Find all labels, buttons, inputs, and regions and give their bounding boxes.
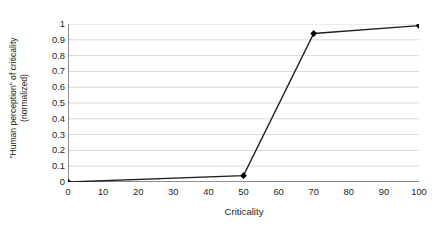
x-axis-tick-labels: 0102030405060708090100 bbox=[0, 186, 446, 204]
y-tick-label: 1 bbox=[34, 19, 65, 29]
x-axis-title: Criticality bbox=[68, 206, 420, 217]
data-point-marker bbox=[240, 172, 247, 179]
x-tick-label: 0 bbox=[48, 186, 88, 197]
data-point-marker bbox=[310, 30, 317, 37]
x-tick-label: 70 bbox=[294, 186, 334, 197]
y-tick-label: 0.6 bbox=[34, 82, 65, 92]
y-tick-label: 0.2 bbox=[34, 145, 65, 155]
x-tick-label: 90 bbox=[364, 186, 404, 197]
plot-area bbox=[68, 24, 419, 182]
y-axis-title-line-1: "Human perception" of criticality bbox=[8, 37, 19, 158]
y-axis-title: "Human perception" of criticality (norma… bbox=[0, 0, 38, 196]
x-tick-label: 50 bbox=[224, 186, 264, 197]
x-tick-label: 80 bbox=[329, 186, 369, 197]
chart-figure: "Human perception" of criticality (norma… bbox=[0, 0, 446, 233]
plot-svg bbox=[68, 24, 419, 182]
y-tick-label: 0.8 bbox=[34, 51, 65, 61]
y-tick-label: 0.1 bbox=[34, 161, 65, 171]
y-axis-tick-labels: 00.10.20.30.40.50.60.70.80.91 bbox=[34, 0, 65, 196]
x-tick-label: 60 bbox=[259, 186, 299, 197]
y-tick-label: 0.4 bbox=[34, 114, 65, 124]
x-tick-label: 30 bbox=[153, 186, 193, 197]
y-tick-label: 0.9 bbox=[34, 35, 65, 45]
y-tick-label: 0.3 bbox=[34, 130, 65, 140]
y-tick-label: 0.5 bbox=[34, 98, 65, 108]
y-tick-label: 0.7 bbox=[34, 66, 65, 76]
data-point-marker bbox=[68, 179, 71, 182]
x-tick-label: 100 bbox=[399, 186, 439, 197]
x-tick-label: 20 bbox=[118, 186, 158, 197]
x-tick-label: 40 bbox=[188, 186, 228, 197]
series-line bbox=[68, 26, 419, 182]
gridlines bbox=[68, 24, 419, 166]
x-tick-label: 10 bbox=[83, 186, 123, 197]
y-axis-title-line-2: (normalized) bbox=[19, 37, 30, 158]
